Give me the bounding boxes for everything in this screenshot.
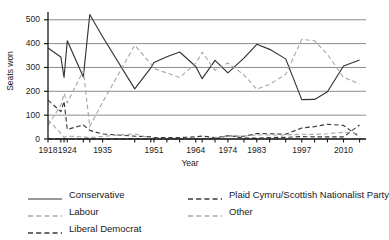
legend-swatch [28,207,62,217]
dashed-line-icon [28,228,62,238]
x-axis-title: Year [0,158,380,168]
series-line-4 [48,120,360,139]
legend-item[interactable]: Plaid Cymru/Scottish Nationalist Party [188,187,388,202]
legend-item[interactable]: Liberal Democrat [28,221,158,236]
series-line-2 [48,100,360,137]
y-tick-label: 500 [10,14,40,24]
axes [48,12,366,139]
legend-item[interactable]: Labour [28,204,158,219]
legend-label: Plaid Cymru/Scottish Nationalist Party [229,189,389,200]
legend-column-left: ConservativeLabourLiberal Democrat [28,187,158,238]
dashed-line-icon [188,211,222,221]
legend-item[interactable]: Other [188,204,388,219]
x-tick-label: 1983 [237,145,277,155]
legend-column-right: Plaid Cymru/Scottish Nationalist PartyOt… [188,187,388,221]
legend-swatch [28,224,62,234]
dashed-line-icon [28,211,62,221]
legend-label: Other [229,206,253,217]
x-tick-label: 2010 [324,145,364,155]
solid-line-icon [28,194,62,204]
data-series [48,15,360,139]
chart-legend: ConservativeLabourLiberal Democrat Plaid… [28,187,373,237]
x-tick-label: 1935 [83,145,123,155]
legend-label: Conservative [69,189,124,200]
legend-label: Labour [69,206,99,217]
y-axis-title: Seats won [5,41,15,101]
x-tick-label: 1997 [282,145,322,155]
x-tick-label: 1951 [134,145,174,155]
legend-label: Liberal Democrat [69,223,141,234]
series-line-0 [48,15,360,100]
gridlines [48,20,366,139]
series-line-1 [48,39,360,126]
dashed-line-icon [188,194,222,204]
legend-item[interactable]: Conservative [28,187,158,202]
x-tick-label: 1924 [47,145,87,155]
y-tick-label: 0 [10,134,40,144]
legend-swatch [28,190,62,200]
legend-swatch [188,207,222,217]
legend-swatch [188,190,222,200]
y-tick-label: 100 [10,110,40,120]
